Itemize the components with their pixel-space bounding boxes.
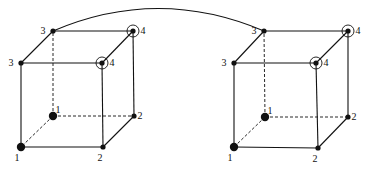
vertex-front-top-left — [231, 60, 236, 65]
vertex-back-top-left — [50, 28, 55, 33]
vertex-label: 3 — [9, 57, 14, 68]
hidden-edge — [264, 31, 265, 117]
vertex-back-top-right — [130, 28, 135, 33]
cube-left: 11223344 — [9, 25, 146, 163]
vertex-label: 3 — [222, 57, 227, 68]
edge — [318, 117, 348, 148]
vertex-label: 2 — [138, 110, 143, 121]
vertex-front-top-left — [18, 60, 23, 65]
vertex-label: 2 — [313, 153, 318, 164]
edge — [133, 31, 134, 116]
vertex-label: 1 — [228, 152, 233, 163]
vertex-label: 1 — [268, 105, 273, 116]
vertex-label: 2 — [98, 152, 103, 163]
cube-right: 11223344 — [222, 25, 361, 164]
vertex-label: 1 — [56, 104, 61, 115]
hidden-edge — [21, 116, 53, 147]
edge — [102, 31, 133, 63]
vertex-back-bottom-right — [345, 114, 350, 119]
vertex-front-top-right — [99, 60, 104, 65]
vertex-label: 3 — [41, 25, 46, 36]
vertex-label: 4 — [356, 25, 361, 36]
vertex-label: 3 — [252, 25, 257, 36]
vertex-back-bottom-right — [131, 113, 136, 118]
vertex-label: 4 — [110, 57, 115, 68]
cube-diagram: 11223344 11223344 — [0, 0, 372, 182]
vertex-label: 2 — [352, 111, 357, 122]
vertex-front-bottom-left — [230, 143, 238, 151]
edge — [316, 31, 348, 63]
vertex-label: 4 — [141, 25, 146, 36]
vertex-front-top-right — [313, 60, 318, 65]
hidden-edge — [234, 117, 265, 147]
edge — [234, 147, 318, 148]
edge — [103, 116, 134, 147]
vertex-front-bottom-left — [17, 143, 25, 151]
vertex-label: 4 — [324, 57, 329, 68]
connecting-arc — [53, 9, 264, 32]
edge — [21, 31, 53, 63]
edge — [102, 63, 103, 147]
vertex-front-bottom-right — [315, 145, 320, 150]
edge — [234, 31, 264, 63]
vertex-front-bottom-right — [100, 144, 105, 149]
edge — [316, 63, 318, 148]
vertex-label: 1 — [15, 152, 20, 163]
vertex-back-top-right — [345, 28, 350, 33]
vertex-back-top-left — [261, 28, 266, 33]
